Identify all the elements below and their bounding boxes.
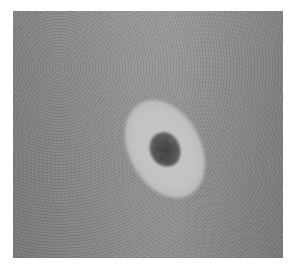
clinical-photo	[13, 11, 283, 258]
